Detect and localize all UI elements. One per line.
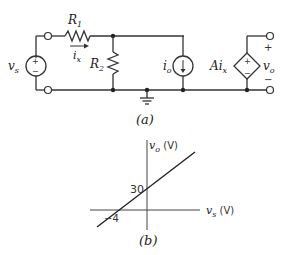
arrowhead-icon <box>181 69 186 73</box>
vo-plus: + <box>264 42 272 53</box>
terminal-icon <box>45 87 52 94</box>
source-label: vs <box>8 59 19 75</box>
vo-minus: − <box>264 74 272 85</box>
node-dot <box>111 88 115 92</box>
resistor-r1-icon <box>65 31 90 41</box>
dep-plus: + <box>244 57 251 66</box>
resistor-r2-icon <box>108 52 118 74</box>
diagram: + − vs R1 ix R2 <box>0 0 287 255</box>
terminal-icon <box>267 33 274 40</box>
source-plus: + <box>32 57 39 66</box>
circuit: + − vs R1 ix R2 <box>8 13 287 127</box>
node-dot <box>181 88 185 92</box>
terminal-icon <box>45 33 52 40</box>
source-minus: − <box>32 67 39 76</box>
x-intercept-label: −4 <box>104 213 119 224</box>
y-axis-label: vo (V) <box>149 139 178 154</box>
io-label: io <box>163 59 172 75</box>
caption-b: (b) <box>139 233 157 248</box>
ix-label: ix <box>73 49 82 64</box>
dep-label: Aix <box>209 59 228 75</box>
dep-minus: − <box>244 69 251 78</box>
r1-label: R1 <box>67 13 82 29</box>
graph: vo (V) vs (V) 30 −4 (b) <box>90 139 234 248</box>
x-axis-label: vs (V) <box>206 204 234 219</box>
vo-label: vo <box>263 59 275 75</box>
arrowhead-icon <box>84 44 89 49</box>
y-intercept-label: 30 <box>130 183 144 196</box>
terminal-icon <box>267 87 274 94</box>
r2-label: R2 <box>89 57 104 73</box>
caption-a: (a) <box>136 112 154 127</box>
node-dot <box>245 88 249 92</box>
